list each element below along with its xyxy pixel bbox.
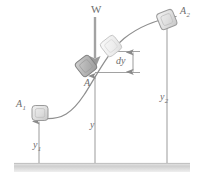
mechanics-diagram: W A A1 A2 y1 y y2 dy (0, 0, 202, 185)
y2-label-text: y (160, 91, 164, 102)
block-a1-label: A1 (16, 99, 26, 109)
point-a-label: A (84, 78, 90, 88)
block-a1 (32, 106, 48, 121)
block-a2 (156, 8, 178, 30)
y1-label-sub: 1 (38, 145, 41, 152)
diagram-canvas (0, 0, 202, 185)
ground-datum (14, 163, 190, 172)
y-label: y (90, 120, 94, 130)
y2-label-sub: 2 (165, 97, 168, 104)
y1-label-text: y (33, 139, 37, 150)
block-a1-label-sub: 1 (22, 104, 25, 111)
curved-path (44, 17, 176, 119)
block-a2-label: A2 (180, 6, 190, 16)
dy-label: dy (116, 56, 125, 66)
y2-label: y2 (160, 92, 168, 102)
y1-label: y1 (33, 140, 41, 150)
weight-label: W (91, 4, 101, 15)
block-a2-label-sub: 2 (186, 11, 189, 18)
